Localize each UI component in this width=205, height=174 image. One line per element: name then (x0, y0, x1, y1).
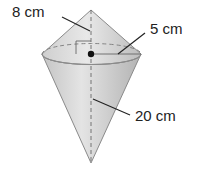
top-cone-label: 8 cm (12, 4, 45, 19)
bottom-cone (42, 54, 141, 163)
bottom-cone-height-label: 20 cm (135, 108, 176, 123)
radius-label: 5 cm (150, 21, 183, 36)
center-dot (88, 51, 94, 57)
